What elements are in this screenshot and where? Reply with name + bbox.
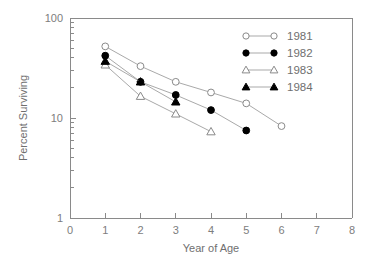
x-tick-label: 4 bbox=[208, 224, 214, 236]
marker-open-circle bbox=[243, 33, 249, 39]
series-line bbox=[105, 65, 211, 132]
plot-area: 012345678110100 1981198219831984 Year of… bbox=[0, 0, 384, 268]
x-tick-label: 5 bbox=[243, 224, 249, 236]
legend-item-1983[interactable]: 1983 bbox=[242, 64, 312, 76]
axis-titles: Year of AgePercent Surviving bbox=[17, 75, 239, 254]
axes: 012345678110100 bbox=[45, 12, 355, 236]
marker-open-circle bbox=[172, 78, 179, 85]
series-line bbox=[105, 46, 281, 126]
x-tick-label: 2 bbox=[137, 224, 143, 236]
x-tick-label: 0 bbox=[67, 224, 73, 236]
x-tick-label: 7 bbox=[314, 224, 320, 236]
marker-filled-circle bbox=[243, 127, 250, 134]
legend-label: 1983 bbox=[287, 64, 313, 76]
marker-open-circle bbox=[243, 100, 250, 107]
y-tick-label: 10 bbox=[51, 112, 63, 124]
x-axis-title: Year of Age bbox=[183, 242, 239, 254]
legend: 1981198219831984 bbox=[242, 30, 313, 93]
series-1982 bbox=[102, 52, 250, 134]
legend-item-1984[interactable]: 1984 bbox=[242, 81, 313, 93]
marker-open-triangle bbox=[172, 110, 180, 117]
x-tick-label: 1 bbox=[102, 224, 108, 236]
x-tick-label: 8 bbox=[349, 224, 355, 236]
legend-item-1981[interactable]: 1981 bbox=[243, 30, 313, 42]
data-series bbox=[101, 43, 285, 135]
marker-filled-circle bbox=[243, 50, 249, 56]
marker-open-circle bbox=[102, 43, 109, 50]
legend-label: 1984 bbox=[287, 81, 313, 93]
legend-item-1982[interactable]: 1982 bbox=[243, 47, 313, 59]
survival-chart: 012345678110100 1981198219831984 Year of… bbox=[0, 0, 384, 268]
marker-open-triangle bbox=[207, 127, 215, 134]
marker-filled-circle bbox=[208, 107, 215, 114]
legend-label: 1982 bbox=[287, 47, 313, 59]
marker-open-circle bbox=[278, 123, 285, 130]
marker-open-circle bbox=[137, 63, 144, 70]
marker-filled-circle bbox=[271, 50, 277, 56]
marker-open-circle bbox=[271, 33, 277, 39]
marker-filled-triangle bbox=[172, 98, 180, 105]
y-tick-label: 100 bbox=[45, 12, 63, 24]
y-axis-title: Percent Surviving bbox=[17, 75, 29, 161]
x-tick-label: 3 bbox=[173, 224, 179, 236]
y-tick-label: 1 bbox=[57, 212, 63, 224]
legend-label: 1981 bbox=[287, 30, 313, 42]
x-tick-label: 6 bbox=[278, 224, 284, 236]
marker-open-circle bbox=[208, 89, 215, 96]
series-1983 bbox=[101, 61, 215, 135]
